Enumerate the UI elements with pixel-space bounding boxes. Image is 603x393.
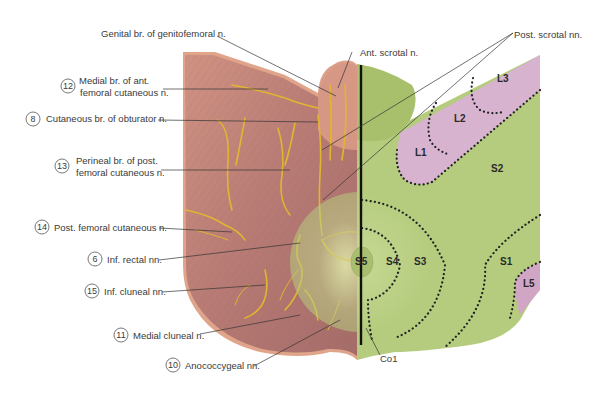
label-perineal-line2: femoral cutaneous n.: [76, 167, 165, 178]
label-number-11: 11: [116, 330, 125, 340]
label-cutaneous-obturator: Cutaneous br. of obturator n.: [46, 113, 167, 124]
label-inf-cluneal: Inf. cluneal nn.: [104, 286, 166, 297]
scrotum-left: [318, 62, 357, 150]
label-number-8: 8: [30, 114, 35, 124]
label-ant-scrotal: Ant. scrotal n.: [360, 47, 418, 58]
dermatome-label-L1: L1: [415, 147, 427, 158]
dermatome-label-S1: S1: [500, 256, 513, 267]
label-anococcygeal: Anococcygeal nn.: [185, 360, 260, 371]
label-number-12: 12: [63, 81, 73, 91]
label-number-15: 15: [87, 286, 97, 296]
label-inf-rectal: Inf. rectal nn.: [107, 254, 162, 265]
label-number-6: 6: [92, 254, 97, 264]
label-number-14: 14: [37, 222, 47, 232]
dermatome-label-S5: S5: [355, 256, 368, 267]
label-genital-br: Genital br. of genitofemoral n.: [101, 28, 226, 39]
dermatome-label-S2: S2: [491, 163, 504, 174]
label-number-10: 10: [168, 360, 178, 370]
label-number-13: 13: [57, 161, 67, 171]
label-perineal-line1: Perineal br. of post.: [76, 155, 158, 166]
label-post-femoral: Post. femoral cutaneous n.: [54, 222, 167, 233]
dermatome-label-L5: L5: [523, 278, 535, 289]
label-medial-br-line1: Medial br. of ant.: [79, 75, 149, 86]
label-medial-br-line2: femoral cutaneous n.: [80, 87, 169, 98]
label-medial-cluneal: Medial cluneal n.: [133, 330, 204, 341]
perineum-dermatome-diagram: L3 L2 L1 S2 S5 S4 S3 S1 L5 Genital br. o…: [0, 0, 603, 393]
dermatome-label-S3: S3: [414, 256, 427, 267]
label-co1: Co1: [380, 353, 397, 364]
dermatome-label-L2: L2: [454, 113, 466, 124]
dermatome-label-S4: S4: [386, 256, 399, 267]
label-post-scrotal: Post. scrotal nn.: [514, 29, 582, 40]
dermatome-label-L3: L3: [497, 73, 509, 84]
